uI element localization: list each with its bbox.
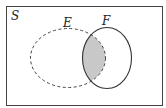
set-f-label: F xyxy=(101,14,111,28)
venn-diagram: S E F xyxy=(0,0,166,108)
set-e-label: E xyxy=(62,16,72,30)
universe-label: S xyxy=(11,9,19,23)
